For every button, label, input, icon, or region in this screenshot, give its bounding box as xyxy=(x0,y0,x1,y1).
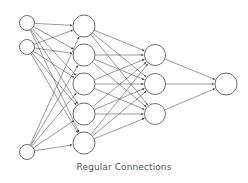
connection-edge xyxy=(34,27,74,49)
connection-edge xyxy=(34,23,72,25)
hidden1-node xyxy=(73,132,95,154)
input-node xyxy=(20,16,35,31)
hidden1-node xyxy=(73,15,95,37)
hidden1-node xyxy=(73,73,95,95)
hidden2-node xyxy=(145,45,166,66)
connection-edge xyxy=(34,145,72,151)
connection-edge xyxy=(165,59,215,79)
connection-edge xyxy=(33,51,74,77)
input-node xyxy=(20,145,35,160)
hidden2-node xyxy=(145,74,166,95)
input-node xyxy=(20,40,35,55)
connections xyxy=(30,23,215,150)
connection-edge xyxy=(92,91,146,136)
connection-edge xyxy=(34,30,73,44)
connection-edge xyxy=(32,93,76,146)
nodes xyxy=(20,15,238,160)
hidden2-node xyxy=(145,104,166,125)
connection-edge xyxy=(91,64,148,134)
connection-edge xyxy=(32,28,76,75)
connection-edge xyxy=(30,37,79,145)
neural-network-diagram xyxy=(0,0,248,183)
connection-edge xyxy=(165,89,215,110)
connection-edge xyxy=(30,30,79,132)
hidden1-node xyxy=(73,103,95,125)
connection-edge xyxy=(32,53,76,105)
output-node xyxy=(215,73,237,95)
diagram-caption: Regular Connections xyxy=(0,162,248,172)
hidden1-node xyxy=(73,44,95,66)
